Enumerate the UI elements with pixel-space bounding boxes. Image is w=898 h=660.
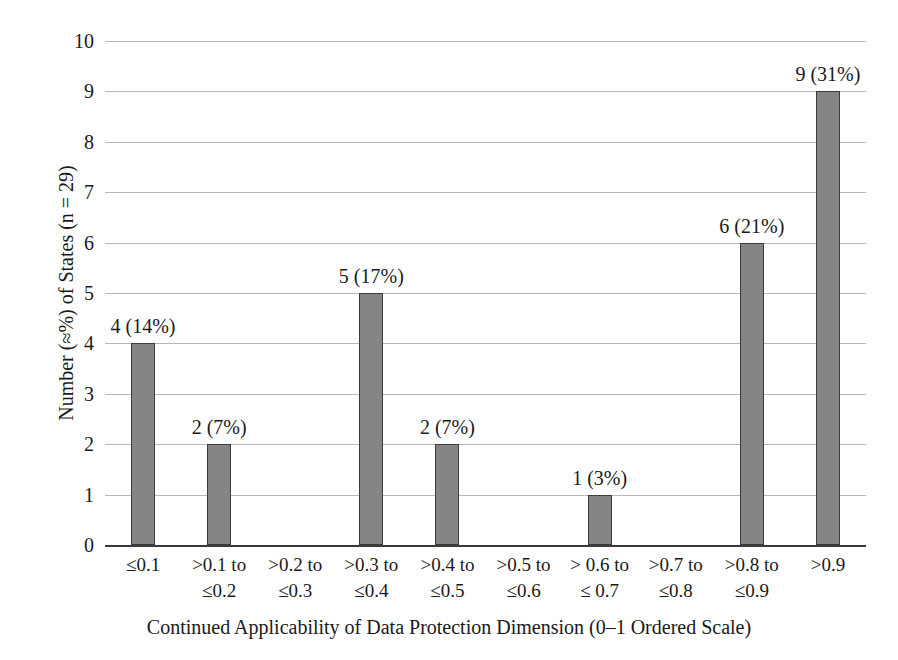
x-axis-tick-label-line2: ≤0.2 <box>180 578 258 604</box>
x-axis-tick-label-line2: ≤0.6 <box>485 578 563 604</box>
x-axis-tick-label-line1: >0.4 to <box>420 554 474 575</box>
x-axis-tick-label-line1: >0.9 <box>811 554 845 575</box>
x-axis-tick-label-line2: ≤0.5 <box>408 578 486 604</box>
x-axis-tick-label: >0.8 to≤0.9 <box>713 552 791 604</box>
x-axis-tick-label-line1: >0.8 to <box>725 554 779 575</box>
x-axis-tick-label: > 0.6 to≤ 0.7 <box>561 552 639 604</box>
gridline <box>105 91 866 92</box>
y-axis-tick-label: 2 <box>48 434 94 454</box>
y-axis-tick-label: 7 <box>48 182 94 202</box>
x-axis-title: Continued Applicability of Data Protecti… <box>0 616 898 639</box>
x-axis-tick-label: >0.7 to≤0.8 <box>637 552 715 604</box>
x-axis-tick-label-line1: ≤0.1 <box>126 554 160 575</box>
x-axis-tick-label: >0.9 <box>789 552 867 578</box>
y-axis-tick-label: 6 <box>48 233 94 253</box>
bar <box>207 444 231 545</box>
bar <box>740 243 764 545</box>
x-axis-tick-label: >0.5 to≤0.6 <box>485 552 563 604</box>
x-axis-tick-label-line2: ≤ 0.7 <box>561 578 639 604</box>
bar-value-label: 1 (3%) <box>540 467 660 489</box>
bar <box>359 293 383 545</box>
x-axis-tick-label-line2: ≤0.3 <box>256 578 334 604</box>
bar-value-label: 2 (7%) <box>159 416 279 438</box>
y-axis-tick-label: 1 <box>48 485 94 505</box>
bar-value-label: 2 (7%) <box>387 416 507 438</box>
x-axis-tick-label-line1: >0.2 to <box>268 554 322 575</box>
gridline <box>105 41 866 42</box>
gridline <box>105 142 866 143</box>
bar <box>588 495 612 545</box>
y-axis-tick-label: 8 <box>48 132 94 152</box>
x-axis-tick-label-line2: ≤0.9 <box>713 578 791 604</box>
bar <box>816 91 840 545</box>
x-axis-tick-label-line2: ≤0.4 <box>332 578 410 604</box>
x-axis-line <box>105 545 866 547</box>
gridline <box>105 192 866 193</box>
y-axis-tick-label: 0 <box>48 535 94 555</box>
bar <box>131 343 155 545</box>
x-axis-tick-label: >0.4 to≤0.5 <box>408 552 486 604</box>
bar-chart-figure: Number (≈%) of States (n = 29) 012345678… <box>0 0 898 660</box>
bar-value-label: 6 (21%) <box>692 215 812 237</box>
y-axis-tick-label: 3 <box>48 384 94 404</box>
bar-value-label: 4 (14%) <box>83 315 203 337</box>
x-axis-tick-label: >0.3 to≤0.4 <box>332 552 410 604</box>
bar-value-label: 5 (17%) <box>311 265 431 287</box>
x-axis-tick-label: >0.2 to≤0.3 <box>256 552 334 604</box>
x-axis-tick-label: ≤0.1 <box>104 552 182 578</box>
plot-area <box>105 41 866 545</box>
bar <box>435 444 459 545</box>
x-axis-tick-label-line1: >0.1 to <box>192 554 246 575</box>
x-axis-tick-label-line1: > 0.6 to <box>570 554 629 575</box>
y-axis-tick-label: 9 <box>48 81 94 101</box>
y-axis-tick-label: 10 <box>48 31 94 51</box>
bar-value-label: 9 (31%) <box>768 63 888 85</box>
y-axis-tick-label: 5 <box>48 283 94 303</box>
x-axis-tick-label-line2: ≤0.8 <box>637 578 715 604</box>
x-axis-tick-label-line1: >0.7 to <box>649 554 703 575</box>
x-axis-tick-label-line1: >0.5 to <box>497 554 551 575</box>
x-axis-tick-label-line1: >0.3 to <box>344 554 398 575</box>
x-axis-tick-label: >0.1 to≤0.2 <box>180 552 258 604</box>
